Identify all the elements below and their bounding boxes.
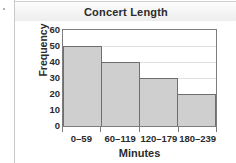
- y-tick-label: 60: [34, 25, 60, 35]
- x-axis-title: Minutes: [62, 147, 217, 159]
- chart-figure: Concert Length Frequency 60 50 40 30 20 …: [0, 0, 236, 163]
- scan-speck: [3, 8, 5, 10]
- x-tick-label: 180–239: [178, 133, 217, 144]
- y-tick-label: 40: [34, 57, 60, 67]
- chart-body: Frequency 60 50 40 30 20 10 0: [15, 21, 236, 163]
- x-axis-tick-labels: 0–59 60–119 120–179 180–239: [62, 133, 217, 144]
- y-tick-label: 50: [34, 41, 60, 51]
- bar: [139, 78, 178, 126]
- x-tick-mark: [139, 127, 140, 132]
- y-tick-label: 0: [34, 121, 60, 131]
- x-axis-tick-marks: [62, 127, 217, 132]
- x-tick-mark: [178, 127, 179, 132]
- y-tick-label: 20: [34, 89, 60, 99]
- x-tick-mark: [100, 127, 101, 132]
- bar-series: [63, 30, 216, 126]
- bar: [101, 62, 140, 126]
- y-tick-label: 30: [34, 73, 60, 83]
- bar: [63, 46, 102, 126]
- plot-area: [62, 29, 217, 127]
- x-tick-label: 0–59: [62, 133, 101, 144]
- y-tick-label: 10: [34, 105, 60, 115]
- x-tick-mark: [216, 127, 217, 132]
- y-axis-tick-labels: 60 50 40 30 20 10 0: [30, 29, 60, 127]
- chart-panel: Concert Length Frequency 60 50 40 30 20 …: [14, 0, 236, 163]
- x-tick-label: 60–119: [101, 133, 140, 144]
- chart-title: Concert Length: [84, 6, 168, 18]
- x-tick-mark: [62, 127, 63, 132]
- bar: [177, 94, 216, 126]
- x-tick-label: 120–179: [140, 133, 179, 144]
